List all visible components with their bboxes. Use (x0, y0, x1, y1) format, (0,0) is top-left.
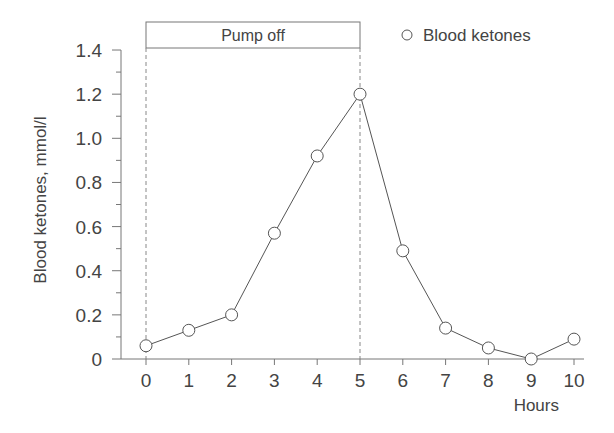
x-tick-label: 10 (563, 370, 584, 391)
x-tick-label: 3 (269, 370, 280, 391)
x-tick-label: 4 (312, 370, 323, 391)
y-tick-label: 0.4 (76, 261, 103, 282)
legend-marker-icon (402, 30, 412, 40)
pump-off-annotation: Pump off (146, 22, 360, 359)
axes: 00.20.40.60.81.01.21.4012345678910 (76, 40, 585, 391)
x-tick-label: 0 (141, 370, 152, 391)
y-tick-label: 1.4 (76, 40, 103, 61)
x-tick-label: 2 (226, 370, 237, 391)
x-tick-label: 1 (184, 370, 195, 391)
x-tick-label: 9 (526, 370, 537, 391)
y-tick-label: 0.8 (76, 172, 102, 193)
data-point-marker (482, 342, 494, 354)
y-tick-label: 0.2 (76, 305, 102, 326)
legend-label: Blood ketones (423, 26, 531, 45)
y-axis-label: Blood ketones, mmol/l (31, 116, 50, 283)
pump-off-label: Pump off (221, 27, 285, 44)
data-point-marker (397, 245, 409, 257)
data-point-marker (311, 150, 323, 162)
blood-ketones-chart: Pump off 00.20.40.60.81.01.21.4012345678… (0, 0, 614, 433)
data-point-marker (354, 88, 366, 100)
data-point-marker (183, 324, 195, 336)
data-point-marker (525, 353, 537, 365)
x-tick-label: 8 (483, 370, 494, 391)
y-tick-label: 1.2 (76, 84, 102, 105)
x-tick-label: 7 (440, 370, 451, 391)
x-tick-label: 6 (398, 370, 409, 391)
data-point-marker (268, 227, 280, 239)
data-point-marker (440, 322, 452, 334)
y-tick-label: 0 (91, 349, 102, 370)
data-point-marker (568, 333, 580, 345)
x-tick-label: 5 (355, 370, 366, 391)
y-tick-label: 0.6 (76, 217, 102, 238)
y-tick-label: 1.0 (76, 128, 102, 149)
data-point-marker (226, 309, 238, 321)
data-point-marker (140, 340, 152, 352)
x-axis-label: Hours (514, 396, 559, 415)
legend: Blood ketones (402, 26, 531, 45)
